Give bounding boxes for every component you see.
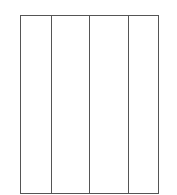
column-divider-1 [51,16,52,193]
column-divider-3 [128,16,129,193]
four-column-frame [20,15,159,194]
column-divider-2 [89,16,90,193]
